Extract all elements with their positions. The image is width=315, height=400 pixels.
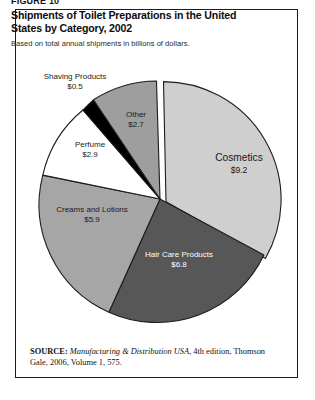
source-label: SOURCE: <box>30 347 68 356</box>
chart-subtitle: Based on total annual shipments in billi… <box>11 39 267 48</box>
source-citation: SOURCE: Manufacturing & Distribution USA… <box>30 346 282 368</box>
pie-chart-svg <box>15 68 298 330</box>
page-title: Shipments of Toilet Preparations in the … <box>11 9 267 36</box>
figure-number-label: FIGURE 10 <box>11 0 59 6</box>
source-publication: Manufacturing & Distribution USA <box>70 347 189 356</box>
pie-chart: Cosmetics $9.2 Hair Care Products $6.8 C… <box>15 68 298 330</box>
chart-header: Shipments of Toilet Preparations in the … <box>11 9 267 48</box>
